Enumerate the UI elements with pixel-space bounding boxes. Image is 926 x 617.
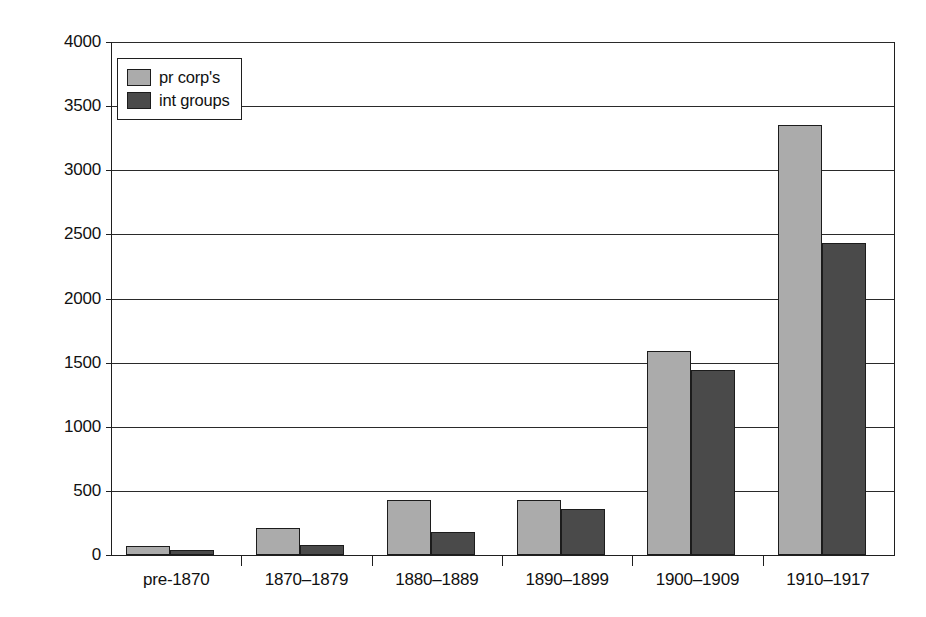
bar (822, 243, 866, 555)
legend-label-int-groups: int groups (159, 91, 229, 110)
bar (256, 528, 300, 555)
y-axis-tick-label: 3000 (64, 160, 101, 180)
bar (561, 509, 605, 555)
y-axis-tick-label: 1000 (64, 417, 101, 437)
x-axis-tick-label: 1910–1917 (763, 570, 893, 590)
y-axis-tick-label: 3500 (64, 96, 101, 116)
y-axis-tick-label: 0 (92, 545, 101, 565)
x-axis-tick-label: pre-1870 (111, 570, 241, 590)
bar (300, 545, 344, 555)
y-axis-tick-label: 4000 (64, 32, 101, 52)
x-axis-tick-label: 1870–1879 (241, 570, 371, 590)
bar-chart: 05001000150020002500300035004000 pre-187… (0, 0, 926, 617)
y-axis-tick-label: 1500 (64, 353, 101, 373)
x-axis-tick-mark (502, 556, 503, 566)
bar (170, 550, 214, 555)
legend-swatch-pr-corps (127, 69, 151, 86)
y-axis-tick-label: 2000 (64, 289, 101, 309)
bar-group (241, 42, 371, 555)
x-axis-tick-mark (241, 556, 242, 566)
bar (517, 500, 561, 555)
legend-swatch-int-groups (127, 92, 151, 109)
bar-group (632, 42, 762, 555)
y-axis-tick-label: 2500 (64, 224, 101, 244)
x-axis-tick-label: 1900–1909 (632, 570, 762, 590)
bar-group (763, 42, 893, 555)
legend-entry-0: pr corp's (127, 66, 229, 89)
bar (691, 370, 735, 555)
legend-label-pr-corps: pr corp's (159, 68, 220, 87)
bar (778, 125, 822, 555)
bar (647, 351, 691, 555)
y-axis-tick-label: 500 (73, 481, 101, 501)
legend: pr corp's int groups (117, 58, 242, 120)
x-axis-tick-label: 1890–1899 (502, 570, 632, 590)
x-axis-tick-label: 1880–1889 (372, 570, 502, 590)
x-axis-tick-mark (372, 556, 373, 566)
legend-entry-1: int groups (127, 89, 229, 112)
bar-group (372, 42, 502, 555)
bar-group (502, 42, 632, 555)
x-axis-tick-mark (763, 556, 764, 566)
bar (126, 546, 170, 555)
bar (431, 532, 475, 555)
bar (387, 500, 431, 555)
x-axis-tick-mark (632, 556, 633, 566)
